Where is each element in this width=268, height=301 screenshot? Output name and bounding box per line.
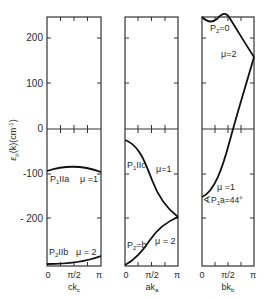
y-tick-labels: 200 100 0 -100 - 200 bbox=[20, 32, 43, 224]
xtick-pi: π bbox=[174, 270, 180, 280]
ytick-200: 200 bbox=[26, 32, 43, 43]
ytick-neg100: -100 bbox=[23, 168, 43, 179]
xtick-0: 0 bbox=[199, 270, 204, 280]
x-axis-label: ckc bbox=[68, 282, 80, 293]
label-mu2: μ = 2 bbox=[155, 236, 175, 246]
label-mu1: μ =1 bbox=[217, 182, 235, 192]
y-axis-label: εμ(k)(cm-1) bbox=[8, 119, 19, 160]
label-mu2: μ = 2 bbox=[76, 247, 96, 257]
x-axis-label: aka bbox=[146, 282, 160, 293]
label-pol2: P2=0 bbox=[210, 23, 230, 34]
label-angle: ∢P1a=44° bbox=[203, 195, 243, 206]
label-mu1: μ=1 bbox=[156, 164, 171, 174]
xtick-0: 0 bbox=[123, 270, 128, 280]
label-mu2: μ=2 bbox=[221, 49, 236, 59]
xtick-0: 0 bbox=[45, 270, 50, 280]
xtick-pi-half: π/2 bbox=[67, 270, 81, 280]
label-pol2: P2IIb bbox=[49, 247, 68, 258]
label-pol1: P1IIa bbox=[50, 174, 69, 185]
xtick-pi: π bbox=[96, 270, 102, 280]
label-pol1: P1IIc bbox=[127, 160, 146, 171]
panel-ck-c: P1IIa μ =1 P2IIb μ = 2 0 π/2 π ckc bbox=[45, 17, 102, 293]
dispersion-figure: εμ(k)(cm-1) 200 100 0 -100 - 200 P1IIa μ bbox=[0, 0, 268, 301]
ytick-100: 100 bbox=[26, 78, 43, 89]
xtick-pi-half: π/2 bbox=[221, 270, 235, 280]
x-axis-label: bkb bbox=[222, 282, 236, 293]
svg-text:εμ(k)(cm-1): εμ(k)(cm-1) bbox=[8, 119, 19, 160]
ytick-0: 0 bbox=[37, 123, 43, 134]
curve-mu1 bbox=[125, 140, 178, 217]
xtick-pi-half: π/2 bbox=[145, 270, 159, 280]
label-mu1: μ =1 bbox=[80, 174, 98, 184]
label-pol2: P2=b bbox=[127, 240, 147, 251]
panel-bk-b: P2=0 μ=2 μ =1 ∢P1a=44° 0 π/2 π bkb bbox=[199, 14, 256, 293]
ytick-neg200: - 200 bbox=[20, 213, 43, 224]
curve-mu1 bbox=[47, 167, 101, 172]
panel-ak-a: P1IIc μ=1 P2=b μ = 2 0 π/2 π aka bbox=[123, 17, 180, 293]
xtick-pi: π bbox=[250, 270, 256, 280]
